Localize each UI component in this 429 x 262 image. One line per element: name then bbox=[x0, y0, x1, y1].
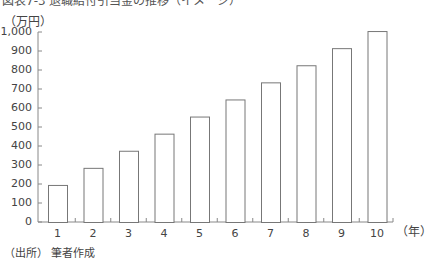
bar-year-2 bbox=[84, 168, 103, 222]
x-axis-unit-label: （年） bbox=[396, 222, 429, 239]
bar-year-9 bbox=[333, 49, 352, 223]
y-tick-label: 100 bbox=[0, 197, 32, 209]
y-tick-label: 200 bbox=[0, 178, 32, 190]
x-tick-label: 9 bbox=[332, 227, 352, 240]
x-tick-label: 1 bbox=[48, 227, 68, 240]
y-tick-label: 300 bbox=[0, 159, 32, 171]
x-tick-label: 4 bbox=[154, 227, 174, 240]
bar-year-4 bbox=[155, 134, 174, 222]
y-tick-label: 600 bbox=[0, 102, 32, 114]
bar-year-1 bbox=[49, 185, 68, 222]
x-tick-label: 6 bbox=[225, 227, 245, 240]
y-tick-label: 500 bbox=[0, 121, 32, 133]
x-tick-label: 7 bbox=[261, 227, 281, 240]
bar-year-5 bbox=[191, 117, 210, 222]
x-tick-label: 5 bbox=[190, 227, 210, 240]
x-tick-label: 10 bbox=[367, 227, 387, 240]
y-tick-label: 0 bbox=[0, 216, 32, 228]
bar-year-3 bbox=[120, 151, 139, 222]
bar-year-10 bbox=[368, 32, 387, 223]
y-tick-label: 700 bbox=[0, 83, 32, 95]
x-tick-label: 2 bbox=[83, 227, 103, 240]
x-tick-label: 3 bbox=[119, 227, 139, 240]
y-tick-label: 1,000 bbox=[0, 26, 32, 38]
y-tick-label: 800 bbox=[0, 64, 32, 76]
bar-year-6 bbox=[226, 100, 245, 223]
x-tick-label: 8 bbox=[296, 227, 316, 240]
bar-year-7 bbox=[262, 83, 281, 223]
bar-year-8 bbox=[297, 66, 316, 223]
source-note: （出所） 筆者作成 bbox=[4, 244, 96, 260]
y-tick-label: 400 bbox=[0, 140, 32, 152]
y-tick-label: 900 bbox=[0, 45, 32, 57]
